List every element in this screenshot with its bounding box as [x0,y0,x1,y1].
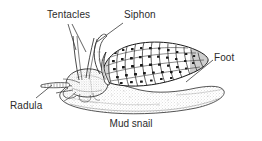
label-foot: Foot [214,52,234,63]
leader-line-siphon [97,23,123,42]
label-siphon: Siphon [124,9,156,20]
snail-radula [41,83,70,88]
figure-caption: Mud snail [0,118,262,129]
label-radula: Radula [10,100,42,111]
snail-diagram-figure: Tentacles Siphon Foot Radula Mud snail [0,0,262,141]
snail-shell [102,42,209,90]
leader-line-tentacles-left [68,24,76,50]
label-tentacles: Tentacles [47,9,90,20]
